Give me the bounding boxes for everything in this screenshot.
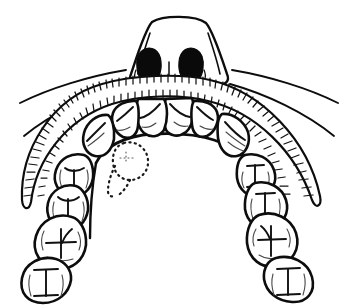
tooth-t27[interactable] — [21, 258, 71, 303]
tooth-t12-outline — [191, 101, 217, 137]
tooth-t21[interactable] — [136, 99, 167, 136]
tooth-t27-transverse-a — [34, 269, 58, 270]
tooth-t22-outline — [112, 101, 138, 138]
tooth-t17-transverse-b — [277, 294, 300, 295]
tooth-t17-transverse-a — [277, 268, 300, 269]
tooth-t12[interactable] — [191, 101, 217, 137]
tooth-t15-transverse-a — [256, 193, 275, 194]
tooth-t16-buccal-groove — [258, 239, 286, 240]
tooth-t27-transverse-b — [34, 295, 58, 296]
tooth-t26-buccal-groove — [46, 242, 76, 243]
maxillary-arch-figure — [0, 0, 358, 305]
illustration-canvas — [0, 0, 358, 305]
tooth-t14-transverse-a — [247, 165, 264, 166]
tooth-t22[interactable] — [112, 101, 138, 138]
